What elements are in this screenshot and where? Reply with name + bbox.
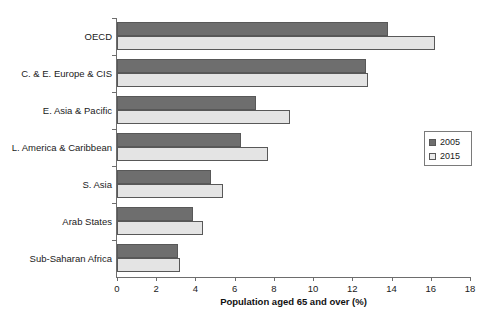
category-label: OECD	[0, 31, 112, 42]
bar-2015-4	[117, 147, 268, 161]
x-axis-tick-label: 18	[458, 283, 482, 295]
x-axis-title: Population aged 65 and over (%)	[117, 296, 470, 307]
category-label: Arab States	[0, 216, 112, 227]
x-axis-tick-label: 14	[380, 283, 404, 295]
bar-2015-7	[117, 258, 180, 272]
y-axis-tick	[112, 18, 117, 19]
bar-chart: OECDC. & E. Europe & CISE. Asia & Pacifi…	[0, 0, 489, 316]
x-axis-tick-label: 0	[105, 283, 129, 295]
x-axis-tick	[313, 277, 314, 281]
dark-swatch-icon	[429, 139, 436, 146]
category-label: L. America & Caribbean	[0, 142, 112, 153]
y-axis-tick	[112, 129, 117, 130]
bar-2015-2	[117, 73, 368, 87]
category-label: S. Asia	[0, 179, 112, 190]
y-axis-tick	[112, 240, 117, 241]
x-axis-tick	[156, 277, 157, 281]
bar-2005-7	[117, 244, 178, 258]
x-axis-tick-label: 2	[144, 283, 168, 295]
bar-2005-2	[117, 59, 366, 73]
category-label: C. & E. Europe & CIS	[0, 68, 112, 79]
y-axis-tick	[112, 166, 117, 167]
legend-item-2005: 2005	[429, 136, 460, 148]
y-axis-tick	[112, 203, 117, 204]
legend-item-2015: 2015	[429, 150, 460, 162]
x-axis-tick-label: 10	[301, 283, 325, 295]
bar-2005-1	[117, 22, 388, 36]
x-axis-tick-label: 8	[262, 283, 286, 295]
bar-2005-6	[117, 207, 193, 221]
y-axis-tick	[112, 92, 117, 93]
x-axis-line	[116, 277, 471, 278]
x-axis-tick-label: 6	[223, 283, 247, 295]
x-axis-tick	[392, 277, 393, 281]
legend-label-2015: 2015	[440, 151, 460, 161]
category-label: E. Asia & Pacific	[0, 105, 112, 116]
light-swatch-icon	[429, 153, 436, 160]
x-axis-tick	[352, 277, 353, 281]
bar-2015-3	[117, 110, 290, 124]
category-label: Sub-Saharan Africa	[0, 253, 112, 264]
x-axis-tick	[431, 277, 432, 281]
x-axis-tick	[470, 277, 471, 281]
bar-2015-6	[117, 221, 203, 235]
x-axis-tick	[117, 277, 118, 281]
bar-2015-5	[117, 184, 223, 198]
legend: 2005 2015	[424, 131, 472, 166]
legend-label-2005: 2005	[440, 137, 460, 147]
bar-2005-5	[117, 170, 211, 184]
bar-2005-4	[117, 133, 241, 147]
x-axis-tick-label: 16	[419, 283, 443, 295]
bar-2015-1	[117, 36, 435, 50]
x-axis-tick	[274, 277, 275, 281]
bar-2005-3	[117, 96, 256, 110]
x-axis-tick-label: 4	[183, 283, 207, 295]
x-axis-tick	[195, 277, 196, 281]
y-axis-tick	[112, 55, 117, 56]
x-axis-tick-label: 12	[340, 283, 364, 295]
x-axis-tick	[235, 277, 236, 281]
